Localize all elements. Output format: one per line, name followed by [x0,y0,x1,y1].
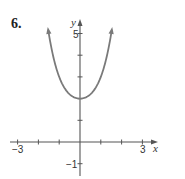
curve-arrow-right-icon [109,27,114,34]
y-axis-label: y [70,16,76,28]
x-tick-label-neg3: −3 [12,144,24,155]
x-axis-label: x [152,142,158,154]
graph: y 5 −1 −3 3 x [0,0,185,179]
x-axis [10,140,158,145]
y-tick-label-neg1: −1 [66,159,78,170]
curve-arrow-left-icon [46,27,51,34]
x-tick-label-3: 3 [140,144,146,155]
y-axis [78,19,83,176]
y-tick-label-5: 5 [73,29,79,40]
y-axis-arrow-icon [78,19,83,26]
